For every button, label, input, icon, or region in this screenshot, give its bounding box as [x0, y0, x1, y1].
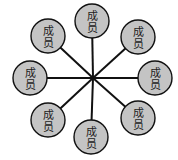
member-label-line2: 员	[87, 22, 98, 35]
member-label-line2: 员	[25, 79, 36, 92]
member-label-line2: 员	[43, 121, 54, 134]
member-label-line2: 员	[133, 119, 144, 132]
member-node: 成员	[75, 4, 109, 38]
member-label-line2: 员	[86, 138, 97, 151]
member-label-line2: 员	[133, 38, 144, 51]
member-node: 成员	[31, 19, 65, 53]
member-node: 成员	[121, 101, 155, 135]
member-node: 成员	[138, 61, 172, 95]
member-node: 成员	[121, 20, 155, 54]
member-label-line2: 员	[43, 37, 54, 50]
member-label-line2: 员	[150, 79, 161, 92]
member-node: 成员	[31, 103, 65, 137]
star-network-diagram: 成员成员成员成员成员成员成员成员	[0, 0, 178, 160]
member-node: 成员	[13, 61, 47, 95]
member-node: 成员	[74, 120, 108, 154]
